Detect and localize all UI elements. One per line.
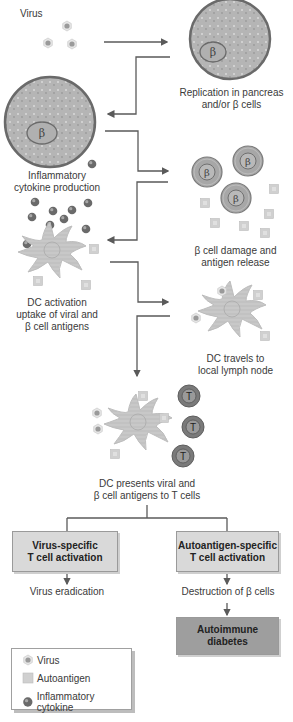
arrow-travel-to-presentation — [137, 316, 170, 376]
svg-text:β: β — [204, 167, 210, 178]
cytokine-icon — [84, 199, 93, 208]
beta-damage-label: β cell damage and antigen release — [178, 245, 293, 269]
svg-text:β: β — [39, 127, 45, 140]
cytokine-icon — [82, 225, 91, 234]
cytokine-icon — [68, 206, 77, 215]
arrow-inflammation-to-damage — [105, 131, 168, 171]
autoantigen-icon — [34, 277, 43, 286]
autoantigen-icon — [211, 219, 220, 228]
infected-pancreatic-cell: β — [190, 0, 270, 79]
legend: Virus Autoantigen Inflammatory cytokine — [11, 648, 132, 710]
virus-icon — [44, 38, 53, 48]
cytokine-icon — [22, 696, 34, 708]
autoantigen-icon — [240, 222, 249, 231]
virus-icon — [93, 408, 102, 418]
autoantigen-icon — [90, 245, 99, 254]
legend-item-autoantigen: Autoantigen — [22, 672, 90, 684]
autoantigen-icon — [160, 414, 169, 423]
dendritic-cell-travels — [192, 281, 270, 341]
autoantigen-icon — [254, 291, 263, 300]
cytokine-icon — [60, 215, 69, 224]
autoantigen-icon — [261, 332, 270, 341]
destruction-label: Destruction of β cells — [176, 586, 280, 598]
cytokine-icon — [31, 198, 40, 207]
legend-item-cytokine: Inflammatory cytokine — [22, 691, 131, 713]
autoantigen-specific-activation-box: Autoantigen-specific T cell activation — [176, 531, 279, 572]
autoantigen-icon — [111, 450, 120, 459]
svg-text:β: β — [210, 46, 216, 59]
dendritic-cell-presenting — [93, 392, 172, 459]
autoantigen-icon — [82, 281, 91, 290]
autoantigen-icon — [265, 210, 274, 219]
virus-icon — [94, 424, 103, 434]
replication-label: Replication in pancreas and/or β cells — [170, 87, 293, 111]
inflamed-pancreatic-cell: β — [5, 77, 95, 167]
svg-text:T: T — [186, 391, 192, 402]
autoantigen-icon — [139, 392, 148, 401]
svg-text:β: β — [233, 193, 239, 204]
cytokine-icon — [88, 160, 97, 169]
virus-eradication-label: Virus eradication — [12, 586, 122, 598]
autoimmune-diabetes-box: Autoimmune diabetes — [176, 617, 279, 655]
virus-group-top — [44, 21, 77, 49]
arrow-replication-to-inflammation — [108, 57, 170, 114]
cytokine-icon — [28, 213, 37, 222]
inflammatory-label: Inflammatory cytokine production — [5, 170, 109, 194]
virus-icon — [22, 654, 34, 666]
dc-presents-label: DC presents viral and β cell antigens to… — [70, 478, 224, 502]
dc-activation-label: DC activation uptake of viral and β cell… — [5, 297, 109, 333]
autoantigen-icon — [22, 672, 34, 684]
dc-travels-label: DC travels to local lymph node — [178, 353, 293, 377]
autoantigen-icon — [201, 199, 210, 208]
cytokine-icon — [49, 207, 58, 216]
arrow-dc-activation-to-travel — [110, 262, 168, 302]
svg-text:T: T — [180, 451, 186, 462]
damaged-beta-cells: β β β — [192, 146, 279, 238]
virus-icon — [218, 286, 227, 296]
t-cells: T T T — [172, 385, 204, 467]
autoantigen-icon — [270, 185, 279, 194]
virus-specific-activation-box: Virus-specific T cell activation — [12, 531, 118, 572]
arrow-damage-to-dc-activation — [108, 182, 168, 240]
virus-icon — [63, 21, 72, 31]
virus-icon — [68, 39, 77, 49]
svg-text:β: β — [245, 156, 251, 167]
branch-connector — [67, 505, 227, 531]
autoantigen-icon — [261, 229, 270, 238]
legend-item-virus: Virus — [22, 654, 60, 666]
virus-label: Virus — [20, 8, 43, 20]
virus-icon — [192, 313, 201, 323]
svg-text:T: T — [190, 422, 196, 433]
